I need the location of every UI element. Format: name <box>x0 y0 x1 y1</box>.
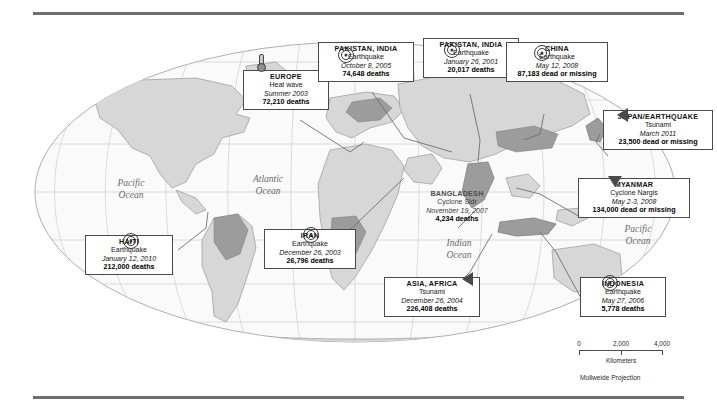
earthquake-icon-pakistan-2005 <box>338 47 353 62</box>
callout-kind: Cyclone Nargis <box>584 189 684 197</box>
earthquake-icon-haiti <box>123 233 138 248</box>
scale-label-2: 4,000 <box>654 340 670 347</box>
ocean-label-atlantic: Atlantic Ocean <box>228 174 308 198</box>
scale-tick-2 <box>662 350 663 355</box>
callout-place: PAKISTAN, INDIA <box>324 45 408 53</box>
ocean-label-indian: Indian Ocean <box>424 238 494 262</box>
callout-kind: Tsunami <box>390 288 474 296</box>
ocean-label-pacific-west: Pacific Ocean <box>96 178 166 202</box>
callout-toll: 20,017 deaths <box>429 66 513 74</box>
scale-tick-0 <box>579 350 580 355</box>
callout-toll: 74,648 deaths <box>324 70 408 78</box>
disaster-map-page: Pacific Ocean Atlantic Ocean Indian Ocea… <box>0 0 717 415</box>
callout-bangladesh[interactable]: BANGLADESH Cyclone Sidr November 19, 200… <box>410 188 504 226</box>
callout-kind: Earthquake <box>586 288 660 296</box>
scale-tick-1 <box>621 350 622 355</box>
projection-note: Mollweide Projection <box>580 374 640 381</box>
thermometer-icon <box>256 54 265 72</box>
callout-toll: 23,500 dead or missing <box>609 138 707 146</box>
scale-bar: 0 2,000 4,000 Kilometers <box>579 338 669 368</box>
callout-europe[interactable]: EUROPE Heat wave Summer 2003 72,210 deat… <box>243 70 329 110</box>
ocean-label-line2: Ocean <box>608 236 668 248</box>
callout-place: BANGLADESH <box>415 190 499 198</box>
earthquake-icon-iran <box>303 227 318 242</box>
callout-toll: 134,000 dead or missing <box>584 206 684 214</box>
callout-place: INDONESIA <box>586 280 660 288</box>
callout-pakistan-india-2001[interactable]: PAKISTAN, INDIA Earthquake January 26, 2… <box>423 38 519 78</box>
ocean-label-pacific-east: Pacific Ocean <box>608 224 668 248</box>
ocean-label-line1: Pacific <box>96 178 166 190</box>
callout-toll: 226,408 deaths <box>390 305 474 313</box>
callout-myanmar[interactable]: MYANMAR Cyclone Nargis May 2-3, 2008 134… <box>578 178 690 218</box>
callout-toll: 5,778 deaths <box>586 305 660 313</box>
tsunami-icon-asia-africa <box>462 272 473 286</box>
callout-kind: Heat wave <box>249 81 323 89</box>
ocean-label-line1: Indian <box>424 238 494 250</box>
callout-kind: Tsunami <box>609 121 707 129</box>
ocean-label-line1: Atlantic <box>228 174 308 186</box>
callout-kind: Cyclone Sidr <box>415 198 499 206</box>
callout-kind: Earthquake <box>512 53 602 61</box>
callout-toll: 212,000 deaths <box>91 263 167 271</box>
callout-kind: Earthquake <box>429 49 513 57</box>
callout-toll: 4,234 deaths <box>415 215 499 223</box>
ocean-label-line2: Ocean <box>424 250 494 262</box>
callout-toll: 26,796 deaths <box>270 257 350 265</box>
callout-toll: 72,210 deaths <box>249 98 323 106</box>
bottom-divider-rule <box>33 396 684 399</box>
callout-indonesia[interactable]: INDONESIA Earthquake May 27, 2006 5,778 … <box>580 277 666 317</box>
scale-label-0: 0 <box>577 340 581 347</box>
ocean-label-line1: Pacific <box>608 224 668 236</box>
callout-place: CHINA <box>512 45 602 53</box>
scale-unit-label: Kilometers <box>606 357 636 364</box>
callout-place: MYANMAR <box>584 181 684 189</box>
ocean-label-line2: Ocean <box>228 186 308 198</box>
earthquake-icon-indonesia <box>602 275 617 290</box>
ocean-label-line2: Ocean <box>96 190 166 202</box>
earthquake-icon-pakistan-2001 <box>444 42 459 57</box>
scale-label-1: 2,000 <box>613 340 629 347</box>
callout-place: PAKISTAN, INDIA <box>429 41 513 49</box>
callout-toll: 87,183 dead or missing <box>512 70 602 78</box>
cyclone-icon-myanmar <box>608 176 622 187</box>
callout-pakistan-india-2005[interactable]: PAKISTAN, INDIA Earthquake October 8, 20… <box>318 42 414 82</box>
world-map: Pacific Ocean Atlantic Ocean Indian Ocea… <box>0 22 717 382</box>
tsunami-icon-japan <box>617 108 628 122</box>
earthquake-icon-china <box>534 45 549 60</box>
callout-place: EUROPE <box>249 73 323 81</box>
top-divider-rule <box>33 12 684 15</box>
callout-china[interactable]: CHINA Earthquake May 12, 2008 87,183 dea… <box>506 42 608 82</box>
